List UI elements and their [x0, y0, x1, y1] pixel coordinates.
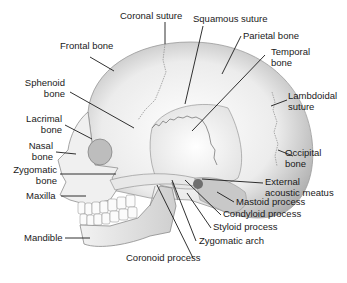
- label-maxilla: Maxilla: [26, 191, 56, 202]
- label-mandible: Mandible: [24, 233, 63, 244]
- label-squamous-suture: Squamous suture: [193, 14, 267, 25]
- label-frontal-bone: Frontal bone: [60, 41, 113, 52]
- label-coronoid-process: Coronoid process: [126, 253, 200, 264]
- skull-diagram: Coronal suture Squamous suture Parietal …: [0, 0, 347, 283]
- label-lambdoidal-suture: Lambdoidalsuture: [288, 91, 337, 112]
- label-temporal-bone: Temporalbone: [271, 47, 310, 68]
- label-mastoid-process: Mastoid process: [236, 197, 305, 208]
- label-occipital-bone: Occipitalbone: [285, 148, 321, 169]
- label-zygomatic-bone: Zygomaticbone: [6, 165, 57, 186]
- label-parietal-bone: Parietal bone: [243, 31, 299, 42]
- label-zygomatic-arch: Zygomatic arch: [199, 236, 264, 247]
- label-styloid-process: Styloid process: [213, 222, 277, 233]
- label-nasal-bone: Nasalbone: [14, 141, 53, 162]
- label-lacrimal-bone: Lacrimalbone: [20, 114, 62, 135]
- label-external-acoustic-meatus: Externalacoustic meatus: [265, 177, 334, 198]
- label-coronal-suture: Coronal suture: [120, 11, 182, 22]
- label-sphenoid-bone: Sphenoidbone: [22, 78, 65, 99]
- label-condyloid-process: Condyloid process: [223, 209, 301, 220]
